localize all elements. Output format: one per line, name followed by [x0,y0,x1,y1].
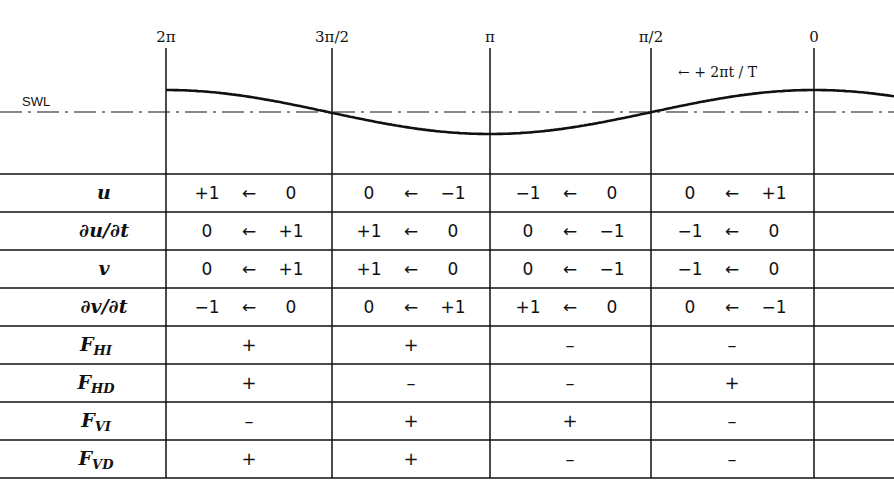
row-label: u [97,181,111,203]
left-arrow-icon: ← [242,297,256,317]
phase-label: 0 [809,28,819,46]
table-row: ∂u/∂t0←+1+1←00←−1−1←0 [79,219,779,241]
phase-label: 2π [156,28,176,46]
force-sign: + [241,372,256,393]
cell-to-value: +1 [761,183,786,203]
table-row: u+1←00←−1−1←00←+1 [97,181,786,203]
phase-label: π/2 [639,28,663,46]
table-row: FHI++–– [79,333,736,358]
left-arrow-icon: ← [242,259,256,279]
cell-from-value: 0 [685,183,696,203]
row-label: v [98,257,110,279]
table-row: FVI–++– [80,409,736,434]
cell-from-value: +1 [356,259,381,279]
phase-label: π [485,28,495,46]
cell-from-value: −1 [677,259,702,279]
cell-to-value: −1 [440,183,465,203]
row-label: FHI [79,333,113,358]
table-row: FHD+––+ [76,371,739,396]
row-label: ∂u/∂t [79,219,129,241]
force-sign: + [241,334,256,355]
force-sign: – [566,334,575,355]
force-sign: + [724,372,739,393]
force-sign: – [245,410,254,431]
force-sign: + [403,410,418,431]
left-arrow-icon: ← [563,259,577,279]
swl-label: SWL [22,94,50,109]
force-sign: – [407,372,416,393]
left-arrow-icon: ← [404,259,418,279]
cell-from-value: +1 [515,297,540,317]
cell-from-value: +1 [356,221,381,241]
cell-to-value: +1 [278,221,303,241]
left-arrow-icon: ← [242,183,256,203]
row-label: ∂v/∂t [80,295,127,317]
left-arrow-icon: ← [725,183,739,203]
row-label: FVI [80,409,112,434]
cell-from-value: −1 [194,297,219,317]
cell-from-value: 0 [202,221,213,241]
left-arrow-icon: ← [404,183,418,203]
cell-from-value: 0 [202,259,213,279]
cell-from-value: −1 [515,183,540,203]
table-row: ∂v/∂t−1←00←+1+1←00←−1 [80,295,786,317]
force-sign: – [728,334,737,355]
force-sign: – [566,448,575,469]
cell-to-value: 0 [448,259,459,279]
cell-to-value: −1 [599,259,624,279]
phase-labels: 2π3π/2ππ/20 [156,28,818,46]
cell-to-value: 0 [286,183,297,203]
cell-to-value: +1 [440,297,465,317]
force-sign: + [241,448,256,469]
left-arrow-icon: ← [404,297,418,317]
cell-to-value: 0 [769,259,780,279]
table-row: v0←+1+1←00←−1−1←0 [98,257,779,279]
wave-direction-label: ← + 2πt / T [678,64,758,80]
left-arrow-icon: ← [563,183,577,203]
cell-to-value: −1 [761,297,786,317]
left-arrow-icon: ← [725,221,739,241]
row-label: FVD [78,447,115,472]
left-arrow-icon: ← [404,221,418,241]
cell-to-value: 0 [448,221,459,241]
left-arrow-icon: ← [725,259,739,279]
force-sign: + [403,334,418,355]
cell-from-value: 0 [685,297,696,317]
cell-from-value: −1 [677,221,702,241]
force-sign: – [566,372,575,393]
cell-from-value: 0 [364,183,375,203]
cell-from-value: +1 [194,183,219,203]
phase-label: 3π/2 [315,28,349,46]
force-sign: + [562,410,577,431]
cell-to-value: +1 [278,259,303,279]
force-sign: – [728,448,737,469]
table-row-dividers [0,174,894,478]
cell-from-value: 0 [523,221,534,241]
cell-from-value: 0 [364,297,375,317]
left-arrow-icon: ← [242,221,256,241]
table-row: FVD++–– [78,447,737,472]
left-arrow-icon: ← [725,297,739,317]
left-arrow-icon: ← [563,221,577,241]
cell-to-value: 0 [286,297,297,317]
row-label: FHD [76,371,115,396]
cell-from-value: 0 [523,259,534,279]
cell-to-value: 0 [607,297,618,317]
force-sign: – [728,410,737,431]
force-sign: + [403,448,418,469]
left-arrow-icon: ← [563,297,577,317]
cell-to-value: 0 [607,183,618,203]
cell-to-value: −1 [599,221,624,241]
wave-force-phase-diagram: 2π3π/2ππ/20 SWL ← + 2πt / T u+1←00←−1−1←… [0,0,894,500]
cell-to-value: 0 [769,221,780,241]
